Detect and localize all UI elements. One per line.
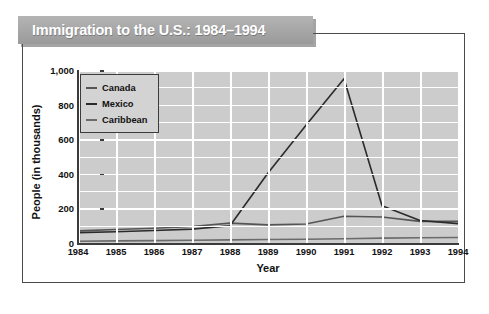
x-tick-label: 1991: [324, 247, 364, 257]
legend-swatch-icon: [86, 87, 97, 89]
x-axis-line: [77, 243, 459, 245]
y-tick-mark: [100, 139, 104, 141]
gridline-vertical: [268, 70, 270, 243]
y-tick-mark: [100, 174, 104, 176]
page-title: Immigration to the U.S.: 1984–1994: [18, 22, 265, 38]
y-axis-label: People (in thousands): [30, 82, 42, 242]
gridline-vertical: [306, 70, 308, 243]
x-tick-label: 1989: [248, 247, 288, 257]
legend-label: Caribbean: [102, 115, 147, 125]
gridline-vertical: [458, 70, 460, 243]
y-axis-line: [77, 70, 79, 244]
legend-item-caribbean: Caribbean: [86, 112, 158, 128]
y-tick-mark: [100, 208, 104, 210]
x-axis-label: Year: [78, 262, 458, 274]
x-tick-label: 1986: [134, 247, 174, 257]
legend-label: Mexico: [102, 99, 134, 109]
chart-legend: CanadaMexicoCaribbean: [80, 74, 159, 133]
gridline-vertical: [192, 70, 194, 243]
legend-swatch-icon: [86, 103, 97, 105]
y-tick-label: 1,000: [30, 65, 74, 76]
y-tick-mark: [100, 243, 104, 245]
gridline-vertical: [382, 70, 384, 243]
x-tick-label: 1984: [58, 247, 98, 257]
x-tick-label: 1990: [286, 247, 326, 257]
legend-item-mexico: Mexico: [86, 96, 158, 112]
legend-swatch-icon: [86, 119, 97, 121]
x-tick-label: 1994: [438, 247, 478, 257]
gridline-vertical: [344, 70, 346, 243]
x-tick-label: 1992: [362, 247, 402, 257]
legend-label: Canada: [102, 83, 136, 93]
x-tick-label: 1988: [210, 247, 250, 257]
line-chart: 02004006008001,000 198419851986198719881…: [0, 0, 489, 314]
legend-item-canada: Canada: [86, 80, 158, 96]
gridline-vertical: [420, 70, 422, 243]
x-tick-label: 1993: [400, 247, 440, 257]
y-tick-mark: [100, 70, 104, 72]
gridline-vertical: [230, 70, 232, 243]
chart-title-banner: Immigration to the U.S.: 1984–1994: [18, 16, 313, 44]
x-tick-label: 1987: [172, 247, 212, 257]
x-tick-label: 1985: [96, 247, 136, 257]
